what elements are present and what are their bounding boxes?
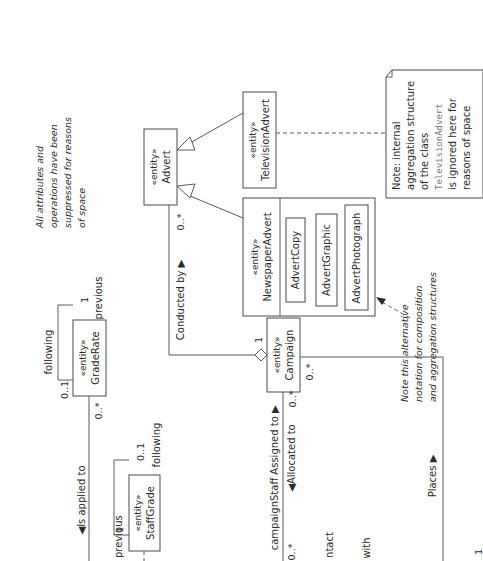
television-note-line-3: of the class [419,133,430,190]
places-label: Places ▶ [427,454,438,497]
grade-rate-following-role: following [43,330,54,375]
staff-grade-mult-following: 0..1 [135,443,146,461]
generalization-arrowhead-icon [177,137,195,150]
advert-name: Advert [161,150,172,183]
suppressed-note-line-4: of space [76,188,87,228]
uml-class-diagram: All attributes and operations have been … [0,0,483,561]
class-advert[interactable]: «entity» Advert [144,129,177,205]
staff-grade-name: StaffGrade [145,486,156,540]
suppressed-note-line-3: suppressed for reasons [62,117,73,228]
class-staff-grade[interactable]: «entity» StaffGrade 0..1 following 1 pre… [113,423,162,561]
allocated-to-label: ◀Allocated to [286,424,297,491]
clipped-with-label: with [361,537,372,558]
is-applied-to-label: ◀Is applied to [76,465,87,534]
alternative-note-line-3: and aggregation structures [427,272,438,402]
staff-grade-stereotype: «entity» [133,495,143,532]
newspaper-advert-stereotype: «entity» [250,239,260,276]
association-assigned-to: 0..* Assigned to ▶ ◀Allocated to campaig… [269,390,298,561]
campaign-name: Campaign [284,330,295,381]
conducted-by-mult-advert: 0..* [175,213,186,230]
television-advert-stereotype: «entity» [248,122,258,159]
places-mult-other: 1 [473,549,483,555]
advert-stereotype: «entity» [149,149,159,186]
television-advert-name: TelevisionAdvert [260,99,271,182]
grade-rate-previous-role: previous [93,277,104,320]
alternative-note-line-2: notation for composition [413,285,424,402]
conducted-by-mult-campaign: 1 [253,337,264,343]
part-advert-photograph-label: AdvertPhotograph [351,213,362,304]
generalization-television [177,113,243,150]
television-note-line-6: reasons of space [461,106,472,190]
campaign-stereotype: «entity» [272,337,282,374]
class-newspaper-advert[interactable]: «entity» NewspaperAdvert AdvertCopy Adve… [243,198,375,316]
part-advert-graphic[interactable]: AdvertGraphic [316,214,337,306]
class-television-advert[interactable]: «entity» TelevisionAdvert [243,92,276,188]
association-is-applied-to: 0..* ◀Is applied to [76,396,104,561]
newspaper-advert-name: NewspaperAdvert [262,212,273,301]
suppressed-note-line-1: All attributes and [34,145,45,229]
assigned-to-role: campaignStaff [269,477,280,551]
grade-rate-stereotype: «entity» [78,340,88,377]
staff-grade-previous-role: previous [113,515,124,558]
generalization-arrowhead-icon [177,184,195,198]
television-note-line-2: aggregation structure [405,81,416,190]
suppressed-note: All attributes and operations have been … [34,117,87,229]
television-note-line-5: is ignored here for [447,97,458,190]
assigned-to-mult-right: 0..* [287,390,298,407]
places-mult-campaign: 0..* [304,363,315,380]
alternative-note-line-1: Note this alternative [399,304,410,402]
staff-grade-following-role: following [151,423,162,468]
assigned-to-mult-left: 0..* [286,543,297,560]
part-advert-copy-label: AdvertCopy [290,231,301,290]
conducted-by-label: Conducted by ▶ [175,260,186,341]
grade-rate-mult-following: 0..1 [59,381,70,399]
television-note-code: TelevisionAdvert [434,103,444,190]
aggregation-diamond-icon [255,349,267,361]
assigned-to-label: Assigned to ▶ [269,405,280,475]
association-places: 0..* Places ▶ 1 [300,357,483,561]
class-grade-rate[interactable]: «entity» GradeRate following 0..1 1 prev… [43,277,106,399]
class-campaign[interactable]: «entity» Campaign [267,318,300,392]
television-note-line-1: Note: internal [391,121,402,190]
part-advert-graphic-label: AdvertGraphic [321,224,332,296]
grade-rate-mult-previous: 1 [79,297,90,303]
part-advert-copy[interactable]: AdvertCopy [286,218,305,302]
grade-rate-name: GradeRate [90,331,101,384]
is-applied-to-mult: 0..* [93,402,104,419]
generalization-newspaper [177,184,243,218]
suppressed-note-line-2: operations have been [48,124,59,228]
television-note: Note: internal aggregation structure of … [386,70,483,198]
alternative-notation-note: Note this alternative notation for compo… [399,272,438,402]
clipped-contact-label: ntact [324,532,335,558]
part-advert-photograph[interactable]: AdvertPhotograph [345,205,368,310]
